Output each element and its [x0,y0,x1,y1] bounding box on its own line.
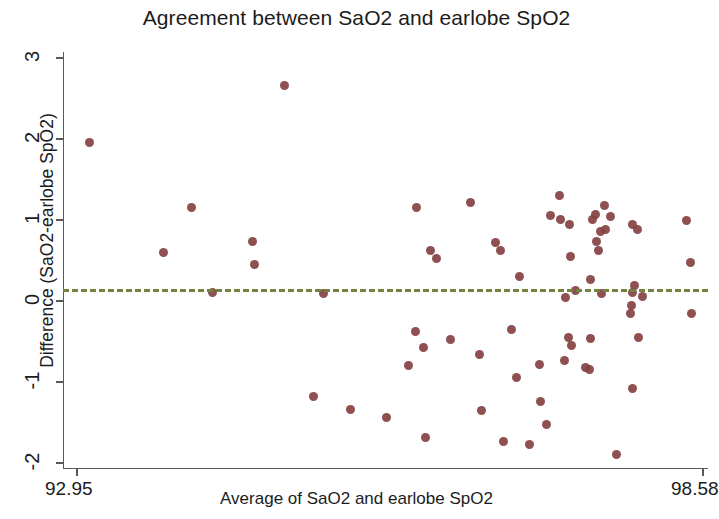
data-point [309,392,318,401]
data-point [556,215,565,224]
data-point [566,252,575,261]
data-point [346,405,355,414]
data-point [628,384,637,393]
x-axis-line [63,468,708,469]
data-point [515,272,524,281]
data-point [565,220,574,229]
data-point [585,365,594,374]
data-point [411,327,420,336]
data-point [626,309,635,318]
data-point [612,450,621,459]
data-point [567,341,576,350]
data-point [606,212,615,221]
data-point [536,397,545,406]
data-point [496,246,505,255]
data-point [475,350,484,359]
chart-title: Agreement between SaO2 and earlobe SpO2 [0,6,713,30]
data-point [466,198,475,207]
data-point [561,293,570,302]
data-point [546,211,555,220]
data-point [159,248,168,257]
data-points-layer [63,52,708,468]
data-point [404,361,413,370]
data-point [586,334,595,343]
data-point [499,437,508,446]
data-point [535,360,544,369]
data-point [592,237,601,246]
data-point [507,325,516,334]
data-point [600,201,609,210]
plot-area [63,52,708,468]
y-tick-label: 3 [21,35,44,79]
y-tick [56,57,63,58]
data-point [686,258,695,267]
data-point [421,433,430,442]
data-point [594,246,603,255]
data-point [432,254,441,263]
data-point [477,406,486,415]
x-tick [76,469,77,476]
x-tick [702,469,703,476]
data-point [446,335,455,344]
data-point [555,191,564,200]
data-point [687,309,696,318]
data-point [248,237,257,246]
data-point [412,203,421,212]
y-axis-title: Difference (SaO2-earlobe SpO2) [37,91,58,391]
data-point [85,138,94,147]
data-point [187,203,196,212]
data-point [633,225,642,234]
data-point [419,343,428,352]
data-point [682,216,691,225]
data-point [601,225,610,234]
data-point [586,275,595,284]
data-point [280,81,289,90]
data-point [542,420,551,429]
data-point [588,215,597,224]
y-tick-label: -2 [21,440,44,484]
x-axis-title: Average of SaO2 and earlobe SpO2 [0,489,713,509]
data-point [512,373,521,382]
data-point [525,440,534,449]
y-tick [56,462,63,463]
mean-difference-reference-line [63,289,708,292]
data-point [382,413,391,422]
data-point [634,333,643,342]
data-point [560,356,569,365]
data-point [250,260,259,269]
data-point [638,292,647,301]
